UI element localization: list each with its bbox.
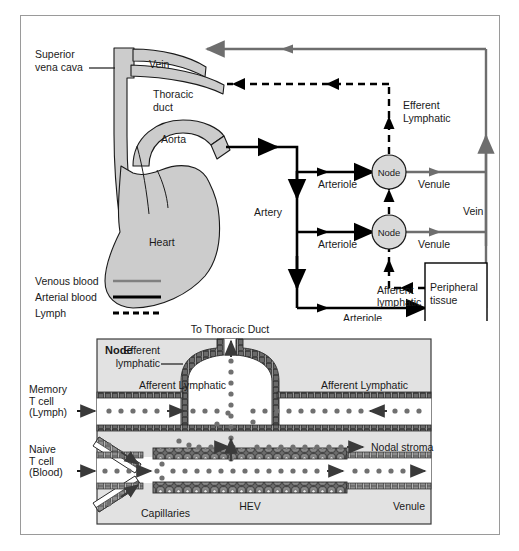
label-venule-upper: Venule bbox=[418, 178, 450, 190]
label-efferent-lymphatic-line1: Efferent bbox=[403, 99, 440, 111]
label-superior-vena-cava-line1: Superior bbox=[35, 48, 75, 60]
arrowhead-afferent-up bbox=[384, 259, 395, 272]
label-afferent-lymphatic-left: Afferent Lymphatic bbox=[139, 379, 226, 391]
hev-wall-bottom bbox=[153, 482, 347, 493]
label-venule-lower: Venule bbox=[418, 238, 450, 250]
label-peripheral-tissue-line2: tissue bbox=[430, 294, 458, 306]
label-vein-top: Vein bbox=[149, 58, 170, 70]
label-peripheral-tissue-line1: Peripheral bbox=[430, 281, 478, 293]
legend-label-venous-blood: Venous blood bbox=[35, 275, 99, 287]
upper-panel-diagram: Superior vena cava Vein Thoracic duct Ao… bbox=[21, 16, 499, 321]
label-memory-t-cell-line1: Memory bbox=[29, 383, 68, 395]
figure-outer-frame: Superior vena cava Vein Thoracic duct Ao… bbox=[20, 15, 500, 535]
arrowhead-efferent-up bbox=[384, 116, 395, 129]
label-afferent-lymphatic-line1: Afferent bbox=[377, 284, 414, 296]
label-arteriole-middle: Arteriole bbox=[318, 238, 357, 250]
arrowhead-arteriole-middle bbox=[317, 228, 329, 237]
label-heart: Heart bbox=[149, 236, 175, 248]
venule-wall-bottom bbox=[347, 483, 431, 489]
label-venule: Venule bbox=[393, 500, 425, 512]
arrowhead-thoracic-left-1 bbox=[232, 78, 245, 90]
label-afferent-lymphatic-right: Afferent Lymphatic bbox=[321, 379, 408, 391]
label-to-thoracic-duct: To Thoracic Duct bbox=[191, 323, 270, 335]
arrowhead-venule-upper bbox=[429, 168, 441, 177]
legend-label-arterial-blood: Arterial blood bbox=[35, 291, 97, 303]
arrowhead-thoracic-left-2 bbox=[326, 78, 339, 90]
label-arteriole-lower: Arteriole bbox=[343, 312, 382, 321]
label-efferent-lymphatic-line2: lymphatic bbox=[116, 357, 160, 369]
afferent-lymph-wall-top-left bbox=[97, 392, 183, 398]
label-nodal-stroma: Nodal stroma bbox=[371, 441, 434, 453]
aorta-to-artery-corner bbox=[270, 147, 297, 308]
arrowhead-vein-top-left bbox=[281, 45, 293, 54]
label-aorta: Aorta bbox=[161, 133, 186, 145]
label-arteriole-upper: Arteriole bbox=[318, 178, 357, 190]
label-artery: Artery bbox=[254, 206, 283, 218]
label-thoracic-duct-line1: Thoracic bbox=[153, 88, 193, 100]
afferent-lymph-wall-top-right bbox=[277, 392, 431, 398]
label-naive-t-cell-line3: (Blood) bbox=[29, 466, 63, 478]
heart-organ-group bbox=[89, 48, 230, 308]
label-efferent-lymphatic-line1: Efferent bbox=[123, 344, 160, 356]
afferent-lymph-wall-bottom bbox=[97, 425, 431, 431]
legend-label-lymph: Lymph bbox=[35, 307, 66, 319]
arrowhead-arteriole-lower bbox=[317, 304, 329, 313]
label-hev: HEV bbox=[239, 500, 261, 512]
lower-panel-diagram: Node To Thoracic Duct Efferent lymphatic… bbox=[21, 321, 499, 536]
label-node-lower: Node bbox=[378, 227, 401, 238]
label-node-upper: Node bbox=[378, 167, 401, 178]
arrowhead-venule-lower bbox=[429, 228, 441, 237]
label-memory-t-cell-line3: (Lymph) bbox=[29, 406, 67, 418]
figure-page: Superior vena cava Vein Thoracic duct Ao… bbox=[0, 0, 519, 551]
label-capillaries: Capillaries bbox=[141, 507, 190, 519]
label-efferent-lymphatic-line2: Lymphatic bbox=[403, 112, 450, 124]
label-naive-t-cell-line1: Naive bbox=[29, 443, 56, 455]
label-vein-right: Vein bbox=[463, 205, 484, 217]
label-afferent-lymphatic-line2: lymphatic bbox=[377, 296, 421, 308]
hev-wall-top bbox=[153, 448, 347, 459]
arrowhead-arteriole-upper bbox=[317, 168, 329, 177]
label-thoracic-duct-line2: duct bbox=[153, 101, 173, 113]
label-superior-vena-cava-line2: vena cava bbox=[35, 61, 83, 73]
arrowhead-internodal-up bbox=[384, 189, 395, 202]
